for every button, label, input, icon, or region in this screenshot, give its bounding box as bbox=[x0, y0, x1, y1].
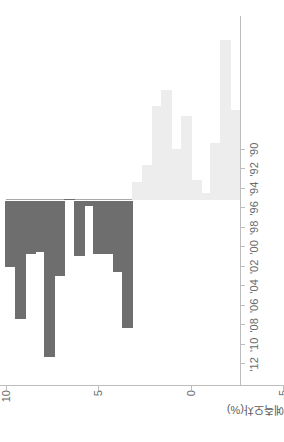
bar bbox=[132, 182, 143, 200]
plot-area bbox=[6, 16, 240, 385]
bar bbox=[152, 106, 163, 200]
y-axis-tick-mark bbox=[6, 386, 7, 391]
bar bbox=[35, 201, 46, 253]
bar bbox=[44, 201, 55, 358]
x-axis-tick-label: '92 bbox=[248, 162, 260, 176]
x-axis-tick-mark bbox=[240, 246, 245, 247]
y-axis-tick-mark bbox=[283, 386, 284, 391]
chart-screenshot: 예측오차(%) 1050-5-10 '90'92'94'96'98'00'02'… bbox=[0, 0, 284, 442]
x-axis-tick-label: '04 bbox=[248, 279, 260, 293]
x-axis-tick-mark bbox=[240, 149, 245, 150]
bar bbox=[64, 200, 75, 201]
x-axis-tick-mark bbox=[240, 324, 245, 325]
x-axis-tick-mark bbox=[240, 168, 245, 169]
bar bbox=[83, 201, 94, 207]
x-axis-tick-mark bbox=[240, 227, 245, 228]
bar bbox=[142, 165, 153, 200]
y-axis-tick-label: 10 bbox=[0, 390, 12, 402]
x-axis-tick-label: '94 bbox=[248, 182, 260, 196]
x-axis-line bbox=[240, 16, 241, 385]
bar bbox=[122, 201, 133, 328]
x-axis-tick-mark bbox=[240, 285, 245, 286]
x-axis-tick-mark bbox=[240, 188, 245, 189]
x-axis-tick-mark bbox=[240, 344, 245, 345]
y-axis-tick-mark bbox=[191, 386, 192, 391]
x-axis-tick-label: '00 bbox=[248, 240, 260, 254]
bar bbox=[54, 201, 65, 277]
x-axis-tick-label: '02 bbox=[248, 260, 260, 274]
x-axis-tick-label: '98 bbox=[248, 221, 260, 235]
y-axis-tick-mark bbox=[98, 386, 99, 391]
bar bbox=[181, 116, 192, 201]
bar bbox=[5, 201, 16, 267]
bar bbox=[200, 193, 211, 200]
bar bbox=[25, 201, 36, 255]
y-axis-tick-label: -5 bbox=[277, 390, 284, 400]
rotated-chart-container: 예측오차(%) 1050-5-10 '90'92'94'96'98'00'02'… bbox=[0, 0, 284, 442]
x-axis-tick-mark bbox=[240, 305, 245, 306]
x-axis-tick-label: '90 bbox=[248, 143, 260, 157]
bar bbox=[210, 143, 221, 200]
bar bbox=[220, 40, 231, 201]
bar bbox=[230, 110, 241, 200]
x-axis-tick-label: '08 bbox=[248, 318, 260, 332]
x-axis-tick-mark bbox=[240, 363, 245, 364]
x-axis-tick-mark bbox=[240, 266, 245, 267]
x-axis-tick-label: '10 bbox=[248, 338, 260, 352]
bar bbox=[93, 201, 104, 255]
bar bbox=[74, 201, 85, 256]
x-axis-tick-label: '96 bbox=[248, 201, 260, 215]
bar bbox=[15, 201, 26, 319]
x-axis-tick-label: '06 bbox=[248, 299, 260, 313]
bar bbox=[113, 201, 124, 273]
bar bbox=[103, 201, 114, 255]
chart-plot-wrapper: 예측오차(%) 1050-5-10 '90'92'94'96'98'00'02'… bbox=[0, 0, 284, 442]
bar bbox=[171, 149, 182, 201]
x-axis-tick-mark bbox=[240, 207, 245, 208]
bar bbox=[191, 180, 202, 200]
bar bbox=[161, 90, 172, 201]
y-axis-tick-labels: 1050-5-10 bbox=[0, 388, 284, 418]
y-axis-line bbox=[0, 385, 284, 386]
x-axis-tick-label: '12 bbox=[248, 357, 260, 371]
